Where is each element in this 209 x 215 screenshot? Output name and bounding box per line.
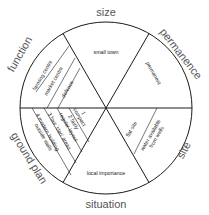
category-label-size: size bbox=[96, 6, 116, 18]
function-item-defence: defence bbox=[60, 79, 75, 98]
category-label-situation: situation bbox=[86, 198, 127, 210]
category-label-site: site bbox=[174, 140, 193, 161]
situation-item: local importance bbox=[87, 170, 126, 176]
site-item-flat: flat site bbox=[124, 120, 138, 138]
permanence-item: permanent bbox=[145, 61, 163, 86]
settlement-wheel-diagram: size permanence site situation ground pl… bbox=[0, 0, 209, 215]
category-label-permanence: permanence bbox=[158, 26, 205, 82]
size-item: small town bbox=[93, 49, 118, 55]
